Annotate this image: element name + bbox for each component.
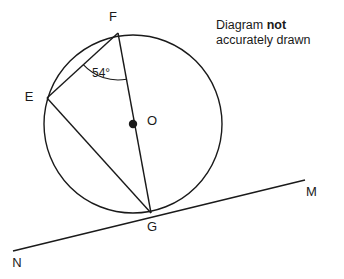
geometry-diagram: E F G O M N 54° Diagram not accurately d… xyxy=(0,0,344,279)
point-label-g: G xyxy=(147,219,157,234)
diagram-note-line-1: Diagram not xyxy=(216,18,311,33)
tangent-nm-line xyxy=(13,180,305,251)
diagram-note-prefix: Diagram xyxy=(216,18,267,32)
point-label-m: M xyxy=(306,184,317,199)
diagram-note-line-2: accurately drawn xyxy=(216,33,311,48)
diagram-note: Diagram not accurately drawn xyxy=(216,18,311,48)
point-label-e: E xyxy=(25,89,34,104)
centre-point-dot xyxy=(129,120,137,128)
chord-eg-line xyxy=(47,98,151,213)
point-label-o: O xyxy=(147,113,157,128)
diagram-note-emphasis: not xyxy=(267,18,286,32)
angle-value-label: 54° xyxy=(92,66,110,80)
point-label-n: N xyxy=(12,255,21,270)
point-label-f: F xyxy=(109,9,117,24)
